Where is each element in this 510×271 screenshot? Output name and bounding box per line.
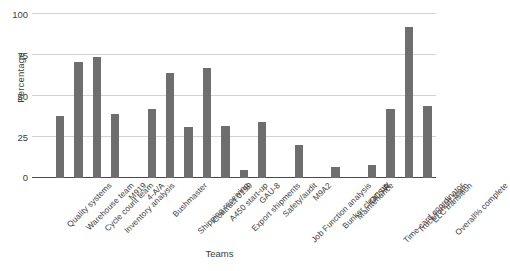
bar bbox=[240, 170, 248, 178]
bar bbox=[258, 122, 266, 178]
x-axis-title: Teams bbox=[0, 248, 439, 259]
bar bbox=[221, 126, 229, 178]
bar bbox=[166, 73, 174, 178]
y-tick-label-25: 25 bbox=[17, 131, 28, 142]
y-tick-label-50: 50 bbox=[17, 90, 28, 101]
bar bbox=[423, 106, 431, 178]
y-tick-label-75: 75 bbox=[17, 49, 28, 60]
bar bbox=[111, 114, 119, 178]
y-axis-title: Percentage bbox=[15, 33, 26, 123]
bar bbox=[74, 62, 82, 178]
bar bbox=[386, 109, 394, 178]
x-axis-tick-labels: Quality systemsWarehouse teamCycle count… bbox=[32, 178, 436, 248]
bar bbox=[405, 27, 413, 178]
bar bbox=[331, 167, 339, 178]
bar bbox=[148, 109, 156, 178]
bar bbox=[93, 57, 101, 178]
plot-area: 0255075100 bbox=[32, 14, 436, 178]
bar bbox=[368, 165, 376, 178]
bar bbox=[184, 127, 192, 178]
y-tick-label-0: 0 bbox=[23, 172, 28, 183]
bar bbox=[56, 116, 64, 178]
y-tick-label-100: 100 bbox=[12, 8, 28, 19]
bar bbox=[295, 145, 303, 178]
bar bbox=[203, 68, 211, 178]
bar-series bbox=[32, 14, 436, 178]
